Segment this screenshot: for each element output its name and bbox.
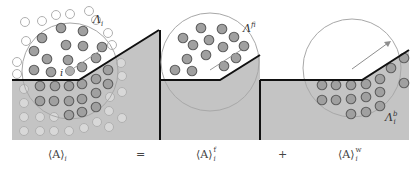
particle-i-label: i <box>60 67 63 78</box>
equation-lhs: ⟨A⟩i <box>48 148 67 163</box>
equation-term-fluid: ⟨A⟩fi <box>196 148 219 161</box>
equation-plus: + <box>278 148 287 161</box>
lambda-label-total: Λi <box>92 13 103 28</box>
radius-line <box>352 43 388 69</box>
radius-arrowhead <box>384 41 391 47</box>
equation-term-wall: ⟨A⟩wi <box>338 148 362 161</box>
particle-i <box>66 67 75 76</box>
particles-fluid <box>170 23 249 76</box>
diagram-figure: Λi i Λfi Λbi <box>0 0 418 145</box>
equation-equals: = <box>136 148 145 161</box>
panel-total <box>12 7 159 141</box>
lambda-label-fluid: Λfi <box>242 21 256 35</box>
